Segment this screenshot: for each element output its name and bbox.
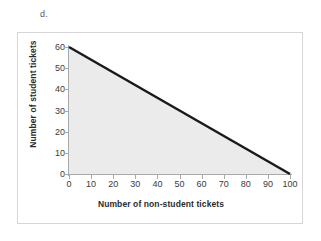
- y-tick-label: 60: [43, 43, 65, 52]
- y-tick-label: 50: [43, 64, 65, 73]
- y-tick-label: 0: [43, 170, 65, 179]
- plot-svg: [69, 47, 290, 174]
- y-tick-mark: [64, 174, 68, 175]
- x-axis-title: Number of non-student tickets: [18, 199, 304, 209]
- y-tick-mark: [64, 68, 68, 69]
- item-label: d.: [40, 9, 48, 19]
- y-tick-mark: [64, 153, 68, 154]
- y-tick-mark: [64, 111, 68, 112]
- y-axis-tick-labels: 0102030405060: [42, 33, 65, 225]
- plot-area: [69, 47, 290, 174]
- y-tick-label: 20: [43, 127, 65, 136]
- x-axis-tick-labels: 0102030405060708090100: [18, 180, 304, 194]
- y-tick-label: 10: [43, 148, 65, 157]
- x-tick-label: 100: [275, 180, 305, 189]
- y-tick-label: 30: [43, 106, 65, 115]
- y-axis-title: Number of student tickets: [28, 32, 38, 156]
- y-tick-label: 40: [43, 85, 65, 94]
- y-tick-mark: [64, 89, 68, 90]
- y-tick-mark: [64, 132, 68, 133]
- chart-frame: Number of student tickets 0102030405060 …: [17, 32, 303, 224]
- y-tick-mark: [64, 47, 68, 48]
